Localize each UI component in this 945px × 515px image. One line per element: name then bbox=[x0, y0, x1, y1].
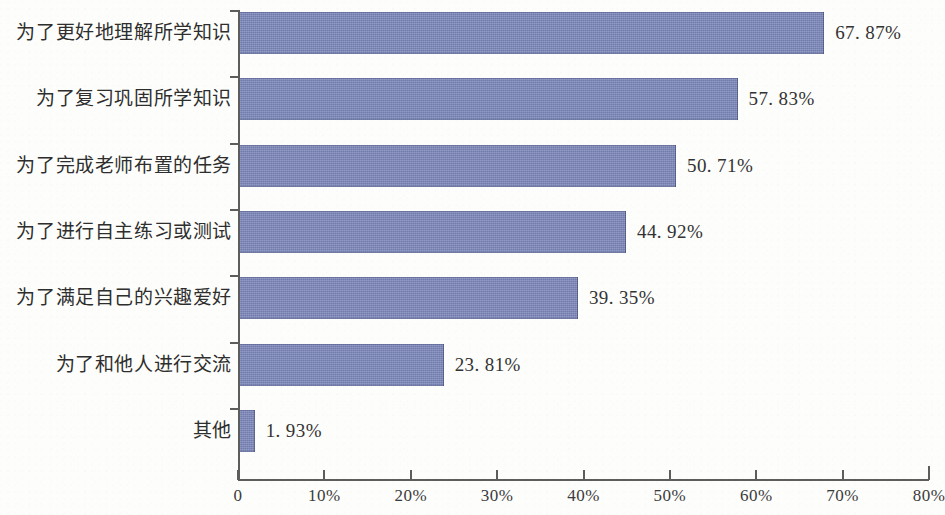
category-label: 其他 bbox=[193, 421, 232, 440]
x-axis-tick bbox=[928, 466, 930, 480]
bar-value-label: 44. 92% bbox=[637, 222, 703, 241]
bar bbox=[240, 78, 738, 120]
x-axis-tick bbox=[496, 470, 498, 480]
bar bbox=[240, 344, 444, 386]
category-label: 为了完成老师布置的任务 bbox=[16, 156, 232, 175]
y-axis-tick bbox=[230, 10, 239, 12]
x-axis-tick bbox=[755, 470, 757, 480]
y-axis-tick bbox=[230, 408, 239, 410]
bar-chart: 010%20%30%40%50%60%70%80% 为了更好地理解所学知识为了复… bbox=[0, 0, 945, 515]
y-axis-tick bbox=[230, 76, 239, 78]
x-axis-tick-label: 50% bbox=[654, 486, 687, 506]
x-axis-tick-label: 70% bbox=[826, 486, 859, 506]
category-label: 为了复习巩固所学知识 bbox=[36, 89, 232, 108]
bar-value-label: 57. 83% bbox=[749, 89, 815, 108]
x-axis-tick bbox=[323, 470, 325, 480]
x-axis-tick-label: 80% bbox=[913, 486, 945, 506]
plot-area: 010%20%30%40%50%60%70%80% 为了更好地理解所学知识为了复… bbox=[0, 0, 945, 515]
x-axis-tick-label: 0 bbox=[234, 486, 243, 506]
category-label: 为了更好地理解所学知识 bbox=[16, 23, 232, 42]
bar-value-label: 39. 35% bbox=[589, 288, 655, 307]
bar-value-label: 67. 87% bbox=[835, 23, 901, 42]
bar-value-label: 1. 93% bbox=[266, 421, 322, 440]
bar-value-label: 50. 71% bbox=[687, 156, 753, 175]
bar bbox=[240, 211, 626, 253]
x-axis-tick-label: 40% bbox=[567, 486, 600, 506]
bar bbox=[240, 12, 824, 54]
bar bbox=[240, 145, 676, 187]
x-axis-tick-label: 10% bbox=[308, 486, 341, 506]
bar bbox=[240, 277, 578, 319]
x-axis-tick-label: 30% bbox=[481, 486, 514, 506]
y-axis-tick bbox=[230, 342, 239, 344]
category-label: 为了和他人进行交流 bbox=[56, 355, 232, 374]
x-axis-tick-label: 60% bbox=[740, 486, 773, 506]
bar-value-label: 23. 81% bbox=[455, 355, 521, 374]
x-axis-tick bbox=[237, 470, 239, 480]
bar bbox=[240, 410, 255, 452]
y-axis-tick bbox=[230, 275, 239, 277]
x-axis-tick bbox=[410, 470, 412, 480]
x-axis-tick bbox=[583, 470, 585, 480]
category-label: 为了进行自主练习或测试 bbox=[16, 222, 232, 241]
category-label: 为了满足自己的兴趣爱好 bbox=[16, 288, 232, 307]
y-axis-tick bbox=[230, 143, 239, 145]
x-axis-tick bbox=[842, 470, 844, 480]
x-axis-tick-label: 20% bbox=[394, 486, 427, 506]
x-axis-tick bbox=[669, 470, 671, 480]
y-axis-tick bbox=[230, 209, 239, 211]
